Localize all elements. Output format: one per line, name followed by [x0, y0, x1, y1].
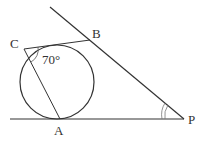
label-b: B: [92, 27, 101, 40]
label-p: P: [188, 113, 195, 126]
angle-label-c: 70°: [42, 53, 60, 66]
geometry-diagram: [0, 0, 202, 144]
angle-arc-p-inner: [165, 105, 168, 119]
chord-cb: [24, 40, 90, 49]
label-a: A: [54, 124, 63, 137]
label-c: C: [10, 37, 19, 50]
tangent-line-pb: [50, 7, 184, 119]
